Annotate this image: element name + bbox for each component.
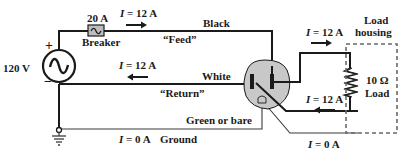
load-resistance: 10 Ω: [366, 74, 389, 86]
load-housing-label-line2: housing: [355, 26, 392, 38]
ground-wire-color: Green or bare: [186, 114, 252, 126]
svg-text:I = 12 A: I = 12 A: [305, 93, 343, 105]
load-bottom-current-arrow: [314, 107, 335, 114]
feed-current-arrow: [126, 22, 147, 29]
load-bottom-current-label: I = 12 A: [305, 93, 343, 105]
return-current-label: I = 12 A: [118, 59, 156, 71]
outlet-neutral-slot: [250, 74, 254, 89]
svg-text:I = 12 A: I = 12 A: [118, 59, 156, 71]
svg-text:I = 12 A: I = 12 A: [305, 26, 343, 38]
load-label: Load: [365, 87, 389, 99]
ground-to-housing-wire: [266, 105, 358, 133]
svg-text:I = 0 A: I = 0 A: [118, 133, 151, 145]
source-voltage-label: 120 V: [3, 62, 30, 74]
return-wire: [59, 84, 252, 85]
return-wire-role: “Return”: [160, 87, 205, 99]
load-top-current-arrow: [311, 40, 332, 47]
outlet-receptacle-icon[interactable]: [244, 60, 290, 109]
circuit-breaker-icon[interactable]: [88, 25, 104, 36]
feed-wire-color: Black: [203, 17, 231, 29]
feed-wire-role: “Feed”: [163, 33, 197, 45]
load-housing-label-line1: Load: [364, 14, 388, 26]
residential-circuit-diagram: + − 120 V 20 A Breaker I = 12 A Black “F…: [0, 0, 414, 156]
breaker-rating: 20 A: [87, 12, 108, 24]
return-current-arrow: [127, 74, 148, 81]
svg-text:I = 12 A: I = 12 A: [119, 7, 157, 19]
load-top-current-label: I = 12 A: [305, 26, 343, 38]
ground-current-label: I = 0 A: [118, 133, 151, 145]
return-wire-color: White: [202, 70, 231, 82]
ground-right-current-label: I = 0 A: [307, 138, 340, 150]
ground-wire-role: Ground: [160, 133, 197, 145]
source-plus-sign: +: [45, 38, 53, 53]
svg-text:I = 0 A: I = 0 A: [307, 138, 340, 150]
outlet-ground-hole: [258, 96, 266, 103]
breaker-label: Breaker: [82, 36, 120, 48]
feed-current-label: I = 12 A: [119, 7, 157, 19]
source-minus-sign: −: [44, 74, 52, 89]
ground-icon: [52, 128, 66, 146]
